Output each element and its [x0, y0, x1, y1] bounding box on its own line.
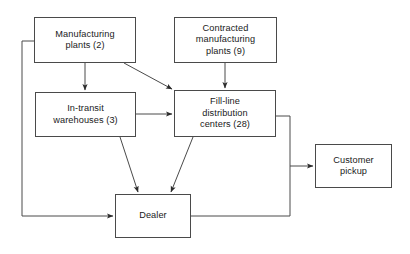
- edge-fill-line-to-customer-pickup: [276, 116, 313, 166]
- node-manufacturing-plants[interactable]: Manufacturing plants (2): [34, 17, 136, 63]
- node-label-customer-pickup: Customer pickup: [330, 155, 376, 178]
- node-label-contracted-manufacturing-plants: Contracted manufacturing plants (9): [193, 23, 258, 57]
- edge-fill-line-to-dealer: [171, 137, 193, 192]
- node-label-in-transit-warehouses: In-transit warehouses (3): [50, 103, 120, 126]
- edge-warehouses-to-dealer: [120, 137, 138, 192]
- node-in-transit-warehouses[interactable]: In-transit warehouses (3): [35, 92, 136, 137]
- edge-manufacturing-to-fill-line: [124, 63, 172, 89]
- flow-diagram: Manufacturing plants (2) Contracted manu…: [0, 0, 410, 254]
- node-contracted-manufacturing-plants[interactable]: Contracted manufacturing plants (9): [174, 17, 277, 63]
- edge-dealer-to-fill-line-return: [191, 166, 290, 216]
- node-label-dealer: Dealer: [136, 210, 170, 221]
- node-fill-line-distribution-centers[interactable]: Fill-line distribution centers (28): [174, 90, 276, 137]
- node-dealer[interactable]: Dealer: [115, 194, 191, 238]
- node-label-fill-line-distribution-centers: Fill-line distribution centers (28): [197, 96, 253, 130]
- node-label-manufacturing-plants: Manufacturing plants (2): [52, 29, 117, 52]
- node-customer-pickup[interactable]: Customer pickup: [315, 144, 392, 188]
